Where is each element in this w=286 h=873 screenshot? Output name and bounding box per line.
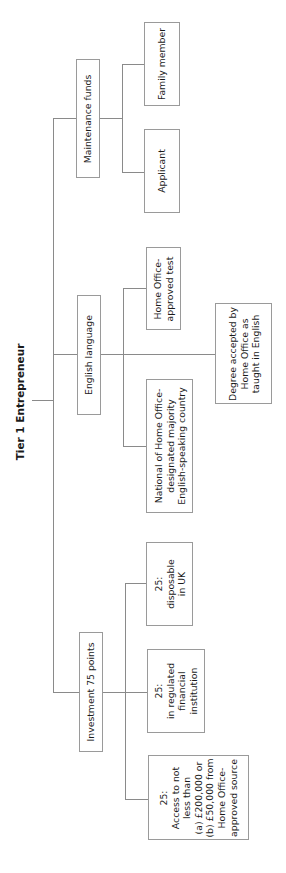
node-family-member: Family member [144, 22, 180, 106]
node-investment-75-points: Investment 75 points [79, 632, 103, 752]
node-label: Home Office- approved test [152, 256, 175, 321]
node-label: National of Home Office- designated majo… [152, 387, 187, 504]
node-label: English language [83, 315, 95, 395]
connector-approved-test [123, 288, 146, 289]
node-label: 25: in regulated financial institution [153, 663, 199, 719]
node-label: Investment 75 points [85, 643, 97, 742]
node-label: 25: disposable in UK [152, 559, 187, 609]
node-maintenance-funds: Maintenance funds [76, 59, 100, 178]
connector-disposable [125, 583, 146, 584]
bracket-maintenance [122, 64, 123, 172]
connector-english-children [101, 354, 215, 355]
node-regulated-financial-institution: 25: in regulated financial institution [147, 649, 205, 733]
connector-national [123, 446, 146, 447]
connector-maintenance [53, 118, 77, 119]
connector-investment [53, 692, 79, 693]
node-label: Family member [156, 28, 168, 100]
connector-family-member [122, 64, 144, 65]
connector-maintenance-children [100, 118, 123, 119]
node-english-language: English language [77, 295, 101, 415]
node-label: Degree accepted by Home Office as taught… [226, 307, 261, 401]
bracket-english [123, 288, 124, 446]
node-label: 25: Access to not less than (a) £200,000… [158, 758, 239, 837]
node-national-english-speaking-country: National of Home Office- designated majo… [146, 379, 193, 513]
node-applicant: Applicant [144, 129, 180, 213]
node-degree-taught-in-english: Degree accepted by Home Office as taught… [215, 303, 272, 404]
connector-access [125, 799, 148, 800]
node-access-to-funds: 25: Access to not less than (a) £200,000… [148, 755, 249, 840]
bracket-investment [125, 583, 126, 799]
node-label: Applicant [156, 149, 168, 193]
node-home-office-approved-test: Home Office- approved test [146, 247, 181, 330]
root-connector [32, 400, 54, 401]
node-disposable-in-uk: 25: disposable in UK [146, 542, 193, 626]
connector-applicant [122, 172, 144, 173]
main-trunk [53, 118, 54, 693]
diagram-title: Tier 1 Entrepreneur [14, 344, 26, 461]
node-label: Maintenance funds [82, 74, 94, 163]
connector-english [53, 354, 77, 355]
